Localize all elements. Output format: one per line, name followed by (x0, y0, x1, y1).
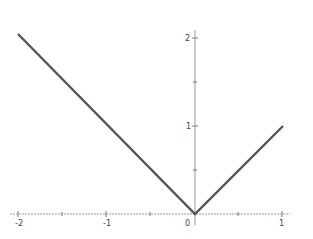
x-tick-label: 0 (185, 219, 190, 228)
chart-plot: -2 -1 0 1 2 1 (0, 0, 313, 239)
x-tick-label: 1 (279, 219, 284, 228)
x-tick-label: -2 (15, 219, 23, 228)
y-tick-label: 1 (186, 122, 191, 131)
x-tick-label: -1 (103, 219, 111, 228)
y-tick-label: 2 (185, 34, 190, 43)
abs-function-line (18, 34, 283, 214)
